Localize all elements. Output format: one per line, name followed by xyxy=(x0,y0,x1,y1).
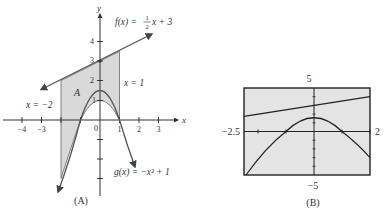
y-tick-label: 4 xyxy=(90,37,94,46)
xmin-label: −2.5 xyxy=(222,126,240,137)
f-frac-num: 1 xyxy=(145,14,148,21)
x-tick-label: −4 xyxy=(18,125,27,134)
f-label-suffix: x + 3 xyxy=(151,17,172,27)
x-tick-label: 2 xyxy=(137,125,141,134)
caption-b: (B) xyxy=(306,197,319,209)
ymax-label: 5 xyxy=(307,73,312,84)
panel-b-graph: 5 −2.5 2 −5 (B) xyxy=(222,73,380,209)
figure: y x −4 −3 0 1 2 3 4 3 2 1 f(x) = 1 2 x +… xyxy=(0,0,385,210)
x-equals-1-label: x = 1 xyxy=(123,78,144,88)
y-axis-label: y xyxy=(96,3,101,13)
x-equals-neg2-label: x = −2 xyxy=(25,100,53,110)
xmax-label: 2 xyxy=(375,126,380,137)
y-tick-label: 3 xyxy=(90,56,94,65)
region-a-label: A xyxy=(73,87,81,98)
x-tick-label: −3 xyxy=(37,125,46,134)
y-tick-label: 2 xyxy=(90,76,94,85)
panel-a-graph: y x −4 −3 0 1 2 3 4 3 2 1 f(x) = 1 2 x +… xyxy=(3,3,186,207)
ymin-label: −5 xyxy=(308,180,319,191)
f-label: f(x) = xyxy=(115,17,137,28)
y-tick-label: 1 xyxy=(92,96,96,105)
x-axis-label: x xyxy=(181,115,186,125)
x-tick-label: 3 xyxy=(157,125,161,134)
origin-label: 0 xyxy=(94,124,98,133)
caption-a: (A) xyxy=(74,195,88,207)
g-label: g(x) = −x² + 1 xyxy=(114,167,170,178)
x-tick-label: 1 xyxy=(118,125,122,134)
f-frac-den: 2 xyxy=(145,23,148,30)
